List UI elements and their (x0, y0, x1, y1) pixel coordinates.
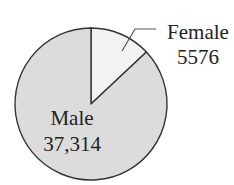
male-label-value: 37,314 (43, 132, 101, 156)
male-label-name: Male (50, 106, 93, 130)
pie-slices (15, 28, 167, 180)
female-label-value: 5576 (177, 45, 219, 69)
pie-chart: Female 5576 Male 37,314 (0, 0, 234, 185)
female-label-name: Female (167, 20, 229, 44)
